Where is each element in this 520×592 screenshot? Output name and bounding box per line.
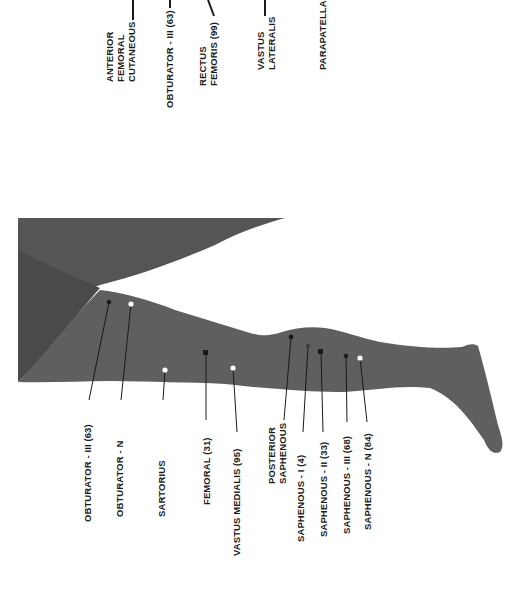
marker-vastus-medialis xyxy=(230,365,235,370)
marker-saphenous-iii xyxy=(344,354,349,359)
leg-illustration xyxy=(0,0,520,592)
label-vastus-lateralis: VASTUS LATERALIS xyxy=(255,17,277,71)
label-posterior-saphenous: POSTERIOR SAPHENOUS xyxy=(266,423,288,484)
label-sartorius: SARTORIUS xyxy=(156,460,167,517)
label-femoral: FEMORAL (31) xyxy=(201,437,212,505)
marker-sartorius xyxy=(162,367,167,372)
label-saphenous-n: SAPHENOUS - N (84) xyxy=(362,433,373,530)
marker-posterior-saphenous xyxy=(289,335,294,340)
label-vastus-medialis: VASTUS MEDIALIS (95) xyxy=(231,449,242,556)
label-saphenous-iii: SAPHENOUS - III (68) xyxy=(341,436,352,534)
label-rectus-femoris: RECTUS FEMORIS (99) xyxy=(197,22,219,86)
marker-obturator-n xyxy=(128,301,133,306)
label-anterior-femoral-cutaneous: ANTERIOR FEMORAL CUTANEOUS xyxy=(104,22,137,82)
leg-nerve-diagram: ANTERIOR FEMORAL CUTANEOUS OBTURATOR - I… xyxy=(0,0,520,592)
marker-femoral xyxy=(203,350,208,355)
marker-saphenous-ii xyxy=(318,349,323,354)
label-saphenous-i: SAPHENOUS - I (4) xyxy=(295,455,306,542)
label-saphenous-ii: SAPHENOUS - II (33) xyxy=(318,442,329,537)
label-obturator-n: OBTURATOR - N xyxy=(114,441,125,517)
marker-obturator-iii xyxy=(107,300,112,305)
label-obturator-iii: OBTURATOR - III (63) xyxy=(82,424,93,522)
label-obturator-iii-top: OBTURATOR - III (63) xyxy=(164,10,175,108)
label-parapatella: PARAPATELLA xyxy=(317,0,328,70)
marker-saphenous-n xyxy=(357,355,362,360)
marker-saphenous-i xyxy=(306,344,310,348)
